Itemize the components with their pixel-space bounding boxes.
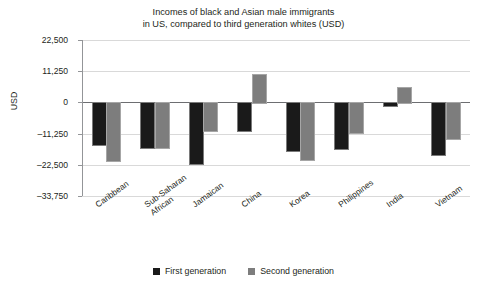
chart-container: Incomes of black and Asian male immigran… xyxy=(0,0,487,285)
x-tick-label: Korea xyxy=(288,189,312,210)
legend-swatch-icon xyxy=(248,268,255,275)
x-tick-label: Jamaican xyxy=(191,181,226,210)
legend-item-second-generation: Second generation xyxy=(248,266,334,276)
x-tick-label-line: Philippines xyxy=(336,177,375,209)
legend-swatch-icon xyxy=(153,268,160,275)
x-axis-labels: CaribbeanSub-SaharanAfricanJamaicanChina… xyxy=(0,0,487,285)
x-tick-label: Sub-SaharanAfrican xyxy=(143,173,194,218)
legend-label: First generation xyxy=(165,266,226,276)
x-tick-label-line: Jamaican xyxy=(191,180,226,209)
x-tick-label: Caribbean xyxy=(94,179,131,209)
x-tick-label-line: Vietnam xyxy=(433,183,464,209)
legend-label: Second generation xyxy=(260,266,334,276)
x-tick-label-line: Caribbean xyxy=(94,178,131,209)
legend-item-first-generation: First generation xyxy=(153,266,226,276)
chart-legend: First generation Second generation xyxy=(0,266,487,276)
x-tick-label: China xyxy=(240,189,263,210)
x-tick-label-line: India xyxy=(385,191,406,210)
x-tick-label-line: China xyxy=(239,188,263,209)
x-tick-label: India xyxy=(385,191,405,209)
x-tick-label: Philippines xyxy=(337,178,375,210)
x-tick-label: Vietnam xyxy=(434,184,464,210)
x-tick-label-line: Korea xyxy=(288,188,312,209)
